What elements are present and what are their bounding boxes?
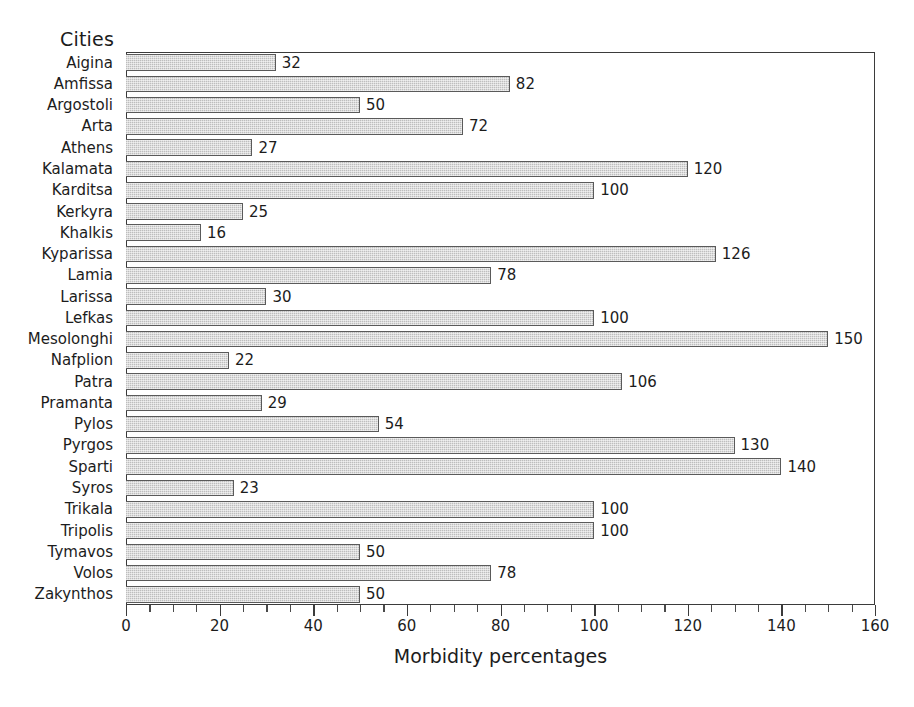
category-label: Pylos bbox=[0, 416, 120, 432]
bar-value-label: 150 bbox=[834, 332, 863, 347]
bar[interactable] bbox=[126, 139, 252, 156]
bar[interactable] bbox=[126, 310, 594, 327]
category-label: Pyrgos bbox=[0, 437, 120, 453]
bar-row: 82 bbox=[126, 76, 875, 93]
bar-row: 140 bbox=[126, 458, 875, 475]
bar-value-label: 29 bbox=[268, 395, 287, 410]
axis-tick-minor bbox=[641, 605, 642, 612]
axis-tick-minor bbox=[290, 605, 291, 612]
bar-value-label: 100 bbox=[600, 310, 629, 325]
axis-tick-minor bbox=[828, 605, 829, 612]
category-label: Trikala bbox=[0, 501, 120, 517]
bar-row: 54 bbox=[126, 416, 875, 433]
axis-tick-minor bbox=[243, 605, 244, 612]
bar-row: 126 bbox=[126, 246, 875, 263]
bar[interactable] bbox=[126, 224, 201, 241]
axis-tick-label: 80 bbox=[491, 618, 510, 635]
category-label: Nafplion bbox=[0, 352, 120, 368]
axis-tick-major bbox=[407, 605, 408, 616]
bar[interactable] bbox=[126, 76, 510, 93]
bar-value-label: 54 bbox=[385, 417, 404, 432]
bar[interactable] bbox=[126, 182, 594, 199]
bar-row: 100 bbox=[126, 310, 875, 327]
axis-tick-major bbox=[501, 605, 502, 616]
bar-value-label: 130 bbox=[741, 438, 770, 453]
category-label: Aigina bbox=[0, 55, 120, 71]
category-label: Zakynthos bbox=[0, 586, 120, 602]
axis-tick-minor bbox=[266, 605, 267, 612]
bar-value-label: 27 bbox=[258, 140, 277, 155]
category-label: Pramanta bbox=[0, 395, 120, 411]
bar[interactable] bbox=[126, 267, 491, 284]
bar-value-label: 50 bbox=[366, 544, 385, 559]
category-label: Kerkyra bbox=[0, 204, 120, 220]
category-label: Arta bbox=[0, 118, 120, 134]
bar[interactable] bbox=[126, 395, 262, 412]
category-label: Karditsa bbox=[0, 182, 120, 198]
bar[interactable] bbox=[126, 97, 360, 114]
bar[interactable] bbox=[126, 544, 360, 561]
category-label: Lefkas bbox=[0, 310, 120, 326]
bar-value-label: 100 bbox=[600, 502, 629, 517]
bar[interactable] bbox=[126, 522, 594, 539]
bar-value-label: 106 bbox=[628, 374, 657, 389]
axis-tick-label: 60 bbox=[397, 618, 416, 635]
axis-tick-label: 160 bbox=[861, 618, 890, 635]
bar[interactable] bbox=[126, 565, 491, 582]
category-label: Larissa bbox=[0, 289, 120, 305]
axis-tick-label: 20 bbox=[210, 618, 229, 635]
bar[interactable] bbox=[126, 118, 463, 135]
bar-value-label: 50 bbox=[366, 98, 385, 113]
bar-row: 100 bbox=[126, 182, 875, 199]
axis-tick-minor bbox=[547, 605, 548, 612]
axis-tick-minor bbox=[618, 605, 619, 612]
category-axis-title: Cities bbox=[60, 28, 114, 50]
bar[interactable] bbox=[126, 437, 735, 454]
category-label: Tymavos bbox=[0, 544, 120, 560]
bar-row: 78 bbox=[126, 267, 875, 284]
bar[interactable] bbox=[126, 54, 276, 71]
axis-tick-minor bbox=[360, 605, 361, 612]
axis-tick-label: 140 bbox=[767, 618, 796, 635]
axis-tick-minor bbox=[664, 605, 665, 612]
axis-tick-major bbox=[313, 605, 314, 616]
axis-tick-minor bbox=[571, 605, 572, 612]
bar[interactable] bbox=[126, 352, 229, 369]
bar-value-label: 16 bbox=[207, 225, 226, 240]
bar-value-label: 140 bbox=[787, 459, 816, 474]
category-label: Kalamata bbox=[0, 161, 120, 177]
bar-row: 100 bbox=[126, 522, 875, 539]
bar[interactable] bbox=[126, 161, 688, 178]
axis-tick-label: 40 bbox=[304, 618, 323, 635]
axis-tick-minor bbox=[149, 605, 150, 612]
bar-row: 72 bbox=[126, 118, 875, 135]
bar-row: 25 bbox=[126, 203, 875, 220]
bar-value-label: 126 bbox=[722, 247, 751, 262]
bar-value-label: 25 bbox=[249, 204, 268, 219]
bar[interactable] bbox=[126, 501, 594, 518]
bar-value-label: 82 bbox=[516, 76, 535, 91]
axis-tick-minor bbox=[196, 605, 197, 612]
bar[interactable] bbox=[126, 458, 781, 475]
bar[interactable] bbox=[126, 416, 379, 433]
category-label: Kyparissa bbox=[0, 246, 120, 262]
axis-tick-minor bbox=[337, 605, 338, 612]
axis-tick-minor bbox=[735, 605, 736, 612]
bar[interactable] bbox=[126, 586, 360, 603]
bar[interactable] bbox=[126, 480, 234, 497]
bar-value-label: 100 bbox=[600, 183, 629, 198]
axis-tick-major bbox=[126, 605, 127, 616]
bar-row: 16 bbox=[126, 224, 875, 241]
bar[interactable] bbox=[126, 203, 243, 220]
bar[interactable] bbox=[126, 331, 828, 348]
category-label: Syros bbox=[0, 480, 120, 496]
category-label: Mesolonghi bbox=[0, 331, 120, 347]
bar-row: 29 bbox=[126, 395, 875, 412]
axis-tick-minor bbox=[430, 605, 431, 612]
bar[interactable] bbox=[126, 373, 622, 390]
bar[interactable] bbox=[126, 288, 266, 305]
bar[interactable] bbox=[126, 246, 716, 263]
axis-tick-minor bbox=[524, 605, 525, 612]
bar-row: 78 bbox=[126, 565, 875, 582]
bar-value-label: 22 bbox=[235, 353, 254, 368]
